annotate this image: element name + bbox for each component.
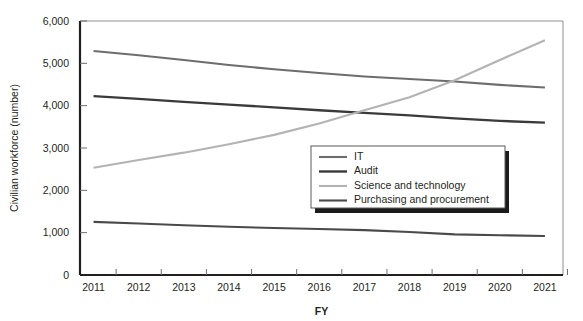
y-axis-tick-label: 2,000: [43, 184, 69, 196]
legend-label-purchasing-and-procurement: Purchasing and procurement: [354, 193, 489, 205]
x-axis-tick-label: 2017: [353, 281, 377, 293]
y-axis-title: Civilian workforce (number): [8, 84, 20, 212]
legend-label-audit: Audit: [354, 164, 378, 176]
x-axis-title: FY: [315, 305, 328, 317]
x-axis-tick-label: 2021: [533, 281, 557, 293]
x-axis-tick-label: 2020: [488, 281, 512, 293]
x-axis-tick-label: 2011: [82, 281, 105, 293]
legend-label-science-and-technology: Science and technology: [354, 179, 466, 191]
chart-canvas: 01,0002,0003,0004,0005,0006,000 20112012…: [0, 0, 583, 321]
line-chart-figure: 01,0002,0003,0004,0005,0006,000 20112012…: [0, 0, 583, 321]
legend-label-it: IT: [354, 150, 364, 162]
y-axis: 01,0002,0003,0004,0005,0006,000: [43, 15, 87, 281]
series-line-audit: [94, 96, 545, 122]
x-axis-tick-label: 2015: [262, 281, 286, 293]
x-axis-tick-label: 2012: [127, 281, 151, 293]
x-axis-tick-label: 2018: [398, 281, 422, 293]
chart-legend: ITAuditScience and technologyPurchasing …: [311, 146, 509, 213]
y-axis-tick-label: 1,000: [43, 226, 69, 238]
x-axis-tick-label: 2013: [172, 281, 196, 293]
y-axis-tick-label: 6,000: [43, 15, 69, 27]
x-axis-tick-label: 2019: [443, 281, 467, 293]
y-axis-tick-label: 5,000: [43, 57, 69, 69]
series-line-purchasing-and-procurement: [94, 222, 545, 236]
y-axis-tick-label: 0: [63, 269, 69, 281]
x-axis-tick-label: 2016: [308, 281, 332, 293]
x-axis: 2011201220132014201520162017201820192020…: [80, 269, 568, 293]
y-axis-tick-label: 4,000: [43, 99, 69, 111]
y-axis-tick-label: 3,000: [43, 142, 69, 154]
x-axis-tick-label: 2014: [217, 281, 241, 293]
